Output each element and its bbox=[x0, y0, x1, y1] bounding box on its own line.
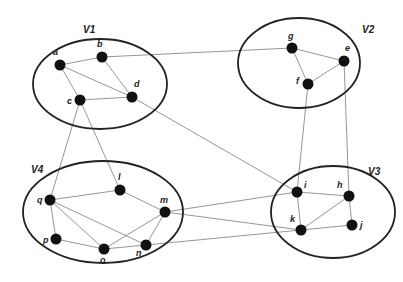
node-label: m bbox=[160, 195, 168, 205]
node-dot bbox=[292, 187, 303, 198]
node-i: i bbox=[292, 180, 308, 198]
cluster-ellipse bbox=[271, 166, 395, 258]
edge-a-c bbox=[60, 65, 80, 100]
cluster-v2: V2 bbox=[238, 18, 375, 108]
node-dot bbox=[141, 240, 152, 251]
node-dot bbox=[344, 191, 355, 202]
node-label: k bbox=[290, 214, 296, 224]
node-label: o bbox=[100, 255, 106, 265]
node-label: q bbox=[37, 195, 43, 205]
node-dot bbox=[97, 52, 108, 63]
node-dot bbox=[127, 92, 138, 103]
node-l: l bbox=[115, 172, 126, 196]
node-dot bbox=[287, 43, 298, 54]
cluster-v3: V3 bbox=[271, 166, 395, 258]
edge-q-n bbox=[50, 200, 146, 245]
node-dot bbox=[347, 220, 358, 231]
edge-c-d bbox=[80, 97, 132, 100]
node-dot bbox=[75, 95, 86, 106]
cluster-label: V4 bbox=[31, 164, 44, 175]
edge-l-m bbox=[120, 190, 165, 212]
node-p: p bbox=[42, 234, 62, 246]
node-g: g bbox=[287, 31, 298, 54]
edge-m-i bbox=[165, 192, 297, 212]
node-dot bbox=[160, 207, 171, 218]
node-dot bbox=[115, 185, 126, 196]
node-label: n bbox=[136, 248, 142, 258]
edge-i-h bbox=[297, 192, 349, 196]
edge-a-d bbox=[60, 65, 132, 97]
node-label: e bbox=[345, 43, 350, 53]
node-dot bbox=[99, 244, 110, 255]
edge-q-l bbox=[50, 190, 120, 200]
node-label: d bbox=[134, 79, 140, 89]
edge-m-k bbox=[165, 212, 301, 230]
node-j: j bbox=[347, 220, 364, 231]
node-dot bbox=[51, 234, 62, 245]
node-label: p bbox=[42, 235, 49, 245]
node-b: b bbox=[97, 39, 108, 63]
edge-c-l bbox=[80, 100, 120, 190]
edge-q-p bbox=[50, 200, 56, 239]
edge-g-f bbox=[292, 48, 308, 84]
node-dot bbox=[45, 195, 56, 206]
edge-f-e bbox=[308, 61, 344, 84]
node-a: a bbox=[53, 47, 66, 71]
node-c: c bbox=[67, 95, 86, 107]
node-dot bbox=[55, 60, 66, 71]
edge-m-n bbox=[146, 212, 165, 245]
edge-b-d bbox=[102, 57, 132, 97]
node-dot bbox=[303, 79, 314, 90]
node-label: f bbox=[296, 76, 300, 86]
node-label: j bbox=[359, 220, 363, 230]
node-f: f bbox=[296, 76, 314, 90]
node-label: g bbox=[287, 31, 294, 41]
node-h: h bbox=[337, 180, 355, 202]
edge-i-k bbox=[297, 192, 301, 230]
cluster-label: V3 bbox=[368, 166, 381, 177]
node-label: b bbox=[97, 39, 103, 49]
node-label: c bbox=[67, 96, 72, 106]
cluster-label: V1 bbox=[83, 24, 96, 35]
edge-p-o bbox=[56, 239, 104, 249]
edge-d-i bbox=[132, 97, 297, 192]
cluster-label: V2 bbox=[362, 24, 375, 35]
edge-a-b bbox=[60, 57, 102, 65]
edge-f-i bbox=[297, 84, 308, 192]
node-e: e bbox=[339, 43, 351, 67]
node-m: m bbox=[160, 195, 171, 218]
node-label: h bbox=[337, 180, 343, 190]
edge-o-m bbox=[104, 212, 165, 249]
edge-c-q bbox=[50, 100, 80, 200]
node-label: l bbox=[118, 172, 121, 182]
node-dot bbox=[296, 225, 307, 236]
edge-e-h bbox=[344, 61, 349, 196]
edge-g-e bbox=[292, 48, 344, 61]
node-k: k bbox=[290, 214, 307, 236]
edge-k-j bbox=[301, 225, 352, 230]
node-d: d bbox=[127, 79, 141, 103]
graph-diagram: V1V2V3V4 abcdgefihkjlqmpon bbox=[0, 0, 403, 282]
node-q: q bbox=[37, 195, 56, 206]
node-label: i bbox=[304, 180, 307, 190]
node-o: o bbox=[99, 244, 110, 266]
edge-h-k bbox=[301, 196, 349, 230]
edge-b-g bbox=[102, 48, 292, 57]
nodes-layer: abcdgefihkjlqmpon bbox=[37, 31, 363, 265]
node-label: a bbox=[53, 47, 58, 57]
node-dot bbox=[339, 56, 350, 67]
edges-layer bbox=[50, 48, 352, 249]
